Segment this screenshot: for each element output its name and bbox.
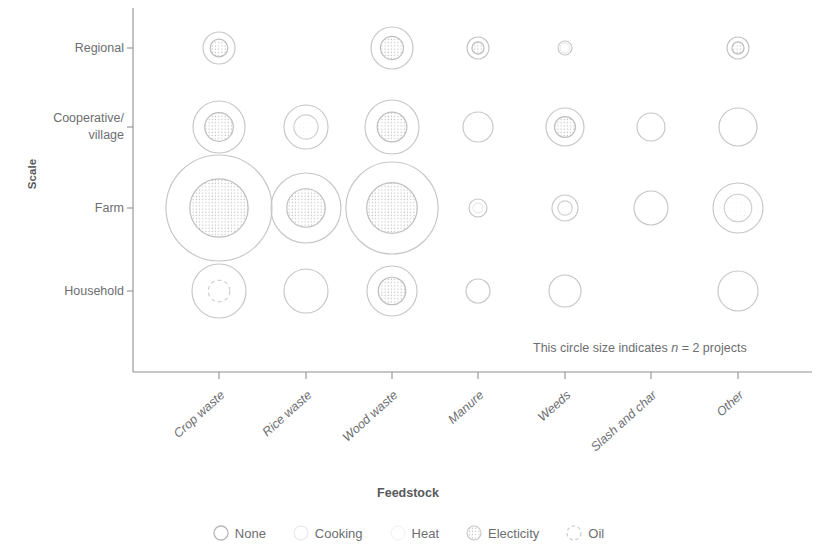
circle-dashed-icon (565, 524, 583, 542)
bubble-use-marker (380, 36, 403, 59)
circle-faint-icon (292, 524, 310, 542)
bubble-outline (718, 271, 758, 311)
bubble-outline (463, 112, 493, 142)
circle-outline-icon (212, 524, 230, 542)
bubble-use-marker (560, 43, 570, 53)
size-annotation-suffix: = 2 projects (678, 341, 746, 355)
bubble-outline (284, 269, 328, 313)
bubble-use-marker (378, 277, 406, 305)
bubble-use-marker (555, 117, 576, 138)
legend-item-heat[interactable]: Heat (389, 524, 439, 542)
bubble-outline (719, 108, 757, 146)
bubble-use-marker (472, 42, 484, 54)
bubble-outline (637, 113, 665, 141)
legend-item-cooking[interactable]: Cooking (292, 524, 363, 542)
bubble-use-marker (558, 201, 572, 215)
bubble-outline (634, 191, 668, 225)
legend-item-none[interactable]: None (212, 524, 266, 542)
legend-item-label: None (235, 527, 266, 540)
bubble-use-marker (190, 179, 248, 237)
circle-dotted-fill-icon (465, 524, 483, 542)
legend-item-label: Heat (412, 527, 439, 540)
bubble-outline (466, 279, 490, 303)
bubble-outline (192, 264, 246, 318)
x-axis-title: Feedstock (0, 486, 816, 500)
circle-very-faint-icon (389, 524, 407, 542)
bubble-use-marker (377, 112, 407, 142)
legend-item-electicity[interactable]: Electicity (465, 524, 539, 542)
size-annotation: This circle size indicates n = 2 project… (533, 341, 747, 355)
bubble-outline (549, 275, 581, 307)
bubble-use-marker (294, 115, 318, 139)
size-annotation-prefix: This circle size indicates (533, 341, 671, 355)
bubble-use-marker (732, 42, 744, 54)
bubble-layer (166, 27, 763, 318)
bubble-chart-figure: Scale Regional Cooperative/ village Farm… (0, 0, 816, 549)
bubble-use-marker (210, 39, 228, 57)
bubble-use-marker (208, 280, 230, 302)
bubble-use-marker (724, 194, 752, 222)
bubble-use-marker (287, 189, 326, 228)
legend: NoneCookingHeatElecticityOil (0, 524, 816, 542)
legend-item-label: Cooking (315, 527, 363, 540)
bubble-use-marker (367, 183, 418, 234)
legend-item-label: Oil (588, 527, 604, 540)
legend-item-label: Electicity (488, 527, 539, 540)
legend-item-oil[interactable]: Oil (565, 524, 604, 542)
bubble-use-marker (205, 113, 234, 142)
bubble-use-marker (473, 203, 483, 213)
